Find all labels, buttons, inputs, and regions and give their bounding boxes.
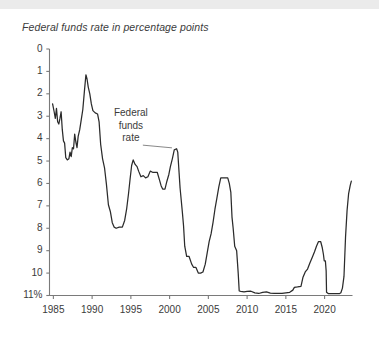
y-axis-tick-label: 7 — [13, 199, 43, 210]
y-axis-tick-label: 8 — [13, 222, 43, 233]
series-annotation: Federal funds rate — [101, 107, 161, 145]
y-axis-tick-label: 2 — [13, 87, 43, 98]
x-axis-tick-label: 1985 — [33, 304, 73, 315]
x-axis-tick-label: 2015 — [266, 304, 306, 315]
x-axis-tick-label: 1995 — [111, 304, 151, 315]
x-axis-tick-label: 2020 — [305, 304, 345, 315]
chart-plot-area — [0, 0, 379, 339]
y-axis-tick-label: 4 — [13, 132, 43, 143]
x-axis-tick-label: 2010 — [227, 304, 267, 315]
data-series-group — [53, 75, 352, 294]
x-axis-tick-label: 1990 — [72, 304, 112, 315]
annotation-line-1: Federal — [101, 107, 161, 120]
annotation-line-3: rate — [101, 132, 161, 145]
y-axis-tick-label: 3 — [13, 110, 43, 121]
axes-group — [46, 49, 352, 299]
y-axis-tick-label: 11% — [13, 289, 43, 300]
y-axis-tick-label: 1 — [13, 65, 43, 76]
y-axis-tick-label: 5 — [13, 155, 43, 166]
y-axis-tick-label: 6 — [13, 177, 43, 188]
chart-figure: Federal funds rate in percentage points … — [0, 0, 379, 339]
x-axis-tick-label: 2005 — [188, 304, 228, 315]
x-axis-tick-label: 2000 — [150, 304, 190, 315]
y-axis-tick-label: 9 — [13, 244, 43, 255]
y-axis-tick-label: 10 — [13, 267, 43, 278]
y-axis-tick-label: 0 — [13, 43, 43, 54]
annotation-leader-line — [143, 145, 172, 148]
annotation-line-2: funds — [101, 120, 161, 133]
